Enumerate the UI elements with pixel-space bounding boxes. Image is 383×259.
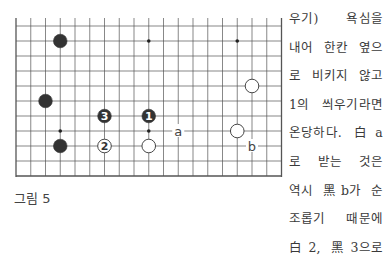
text-line: 온당하다. 白a	[289, 119, 383, 148]
stone-number-2: 2	[101, 140, 109, 153]
text-line: 1의 씌우기라면	[289, 91, 383, 120]
figure-caption: 그림 5	[14, 188, 50, 207]
body-text-column: 우기) 욕심을 내어 한칸 옆으 로 비키지 않고 1의 씌우기라면 온당하다.…	[289, 5, 383, 259]
stone-number-1: 1	[145, 110, 153, 123]
text-line: 조롭기 때문에	[289, 205, 383, 234]
marker-label-b: b	[248, 139, 256, 154]
text-line: 내어 한칸 옆으	[289, 34, 383, 63]
black-stone	[39, 94, 53, 108]
black-stone	[53, 139, 67, 153]
white-stone	[245, 79, 259, 93]
text-line: 우기) 욕심을	[289, 5, 383, 34]
marker-label-a: a	[174, 124, 182, 139]
black-stone	[53, 34, 67, 48]
star-point	[58, 129, 62, 133]
star-point	[147, 39, 151, 43]
star-point	[235, 39, 239, 43]
star-point	[147, 129, 151, 133]
text-line: 白2, 黑3으로	[289, 234, 383, 259]
stone-number-3: 3	[101, 110, 109, 123]
white-stone	[230, 124, 244, 138]
go-board-diagram: ab312	[0, 0, 290, 190]
text-line: 로 받는 것은	[289, 148, 383, 177]
text-line: 역시 黑b가 순	[289, 177, 383, 206]
white-stone	[142, 139, 156, 153]
text-line: 로 비키지 않고	[289, 62, 383, 91]
